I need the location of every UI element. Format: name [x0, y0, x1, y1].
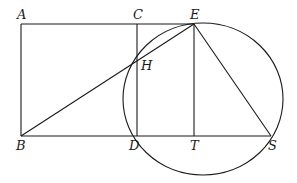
- label-D: D: [128, 138, 140, 153]
- label-S: S: [268, 138, 277, 153]
- label-B: B: [15, 138, 26, 153]
- segment-BE: [21, 24, 194, 136]
- label-E: E: [189, 7, 200, 22]
- label-H: H: [140, 58, 153, 73]
- label-T: T: [190, 138, 200, 153]
- segment-ES: [194, 24, 271, 136]
- circle: [123, 23, 283, 175]
- geometry-diagram: A C E H B D T S: [0, 0, 297, 183]
- label-A: A: [16, 7, 26, 22]
- label-C: C: [133, 7, 143, 22]
